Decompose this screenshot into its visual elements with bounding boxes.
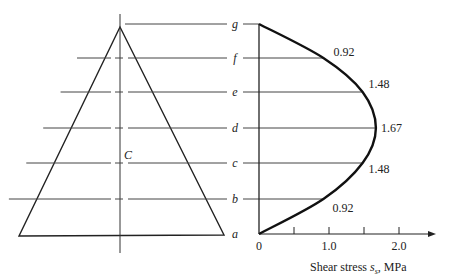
level-a: a [229,227,241,241]
shear-stress-curve [259,24,376,234]
level-label: g [232,17,238,31]
value-label-b: 0.92 [332,201,353,215]
shear-stress-diagram: C gfedcba 01.02.0 0.921.481.671.480.92 S… [0,0,451,276]
level-f: f [77,51,323,65]
stress-plot: 01.02.0 0.921.481.671.480.92 Shear stres… [256,24,436,276]
level-g: g [125,17,259,31]
x-tick-label: 0 [256,239,262,253]
x-axis-arrow [428,231,436,237]
value-label-e: 1.48 [369,77,390,91]
level-label: d [232,121,239,135]
level-d: d [43,121,376,135]
value-labels: 0.921.481.671.480.92 [332,45,402,215]
level-lines: gfedcba [9,17,376,241]
x-tick-label: 1.0 [322,239,337,253]
x-tick-label: 2.0 [392,239,407,253]
value-label-c: 1.48 [369,162,390,176]
level-label: a [232,227,238,241]
value-label-d: 1.67 [381,121,402,135]
x-axis-title: Shear stress ss, MPa [310,260,407,276]
level-c: c [26,156,362,170]
value-label-f: 0.92 [333,45,354,59]
level-label: e [232,85,238,99]
level-b: b [9,192,324,206]
cross-section: C [19,14,224,253]
level-label: c [232,156,238,170]
level-label: b [232,192,238,206]
x-ticks: 01.02.0 [256,227,407,253]
centroid-label: C [124,148,133,162]
level-e: e [61,85,363,99]
